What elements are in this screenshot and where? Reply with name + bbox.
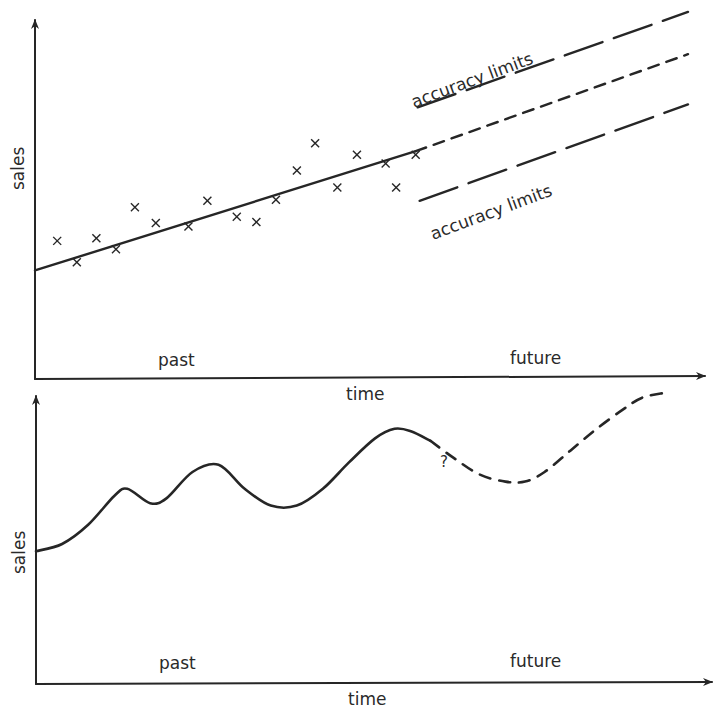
past-label: past	[158, 350, 195, 370]
future-label: future	[510, 348, 561, 368]
data-point-13	[333, 183, 341, 191]
uncertainty-question-mark: ?	[440, 453, 448, 471]
sales-curve-forecast	[430, 393, 665, 483]
data-point-5	[152, 219, 160, 227]
trend-line	[35, 151, 416, 270]
forecast-diagram: sales time past future accuracy limits a…	[0, 0, 718, 715]
lower-limit-label: accuracy limits	[427, 180, 554, 244]
data-point-4	[131, 203, 139, 211]
linear-trend-chart: sales time past future accuracy limits a…	[8, 12, 705, 404]
data-point-0	[53, 237, 61, 245]
future-label: future	[510, 651, 561, 671]
x-axis	[36, 682, 712, 684]
x-axis-label: time	[348, 689, 386, 709]
past-label: past	[159, 653, 196, 673]
data-point-11	[293, 167, 301, 175]
data-point-16	[392, 183, 400, 191]
data-point-14	[353, 151, 361, 159]
cyclical-sales-chart: sales time past future ?	[9, 393, 712, 709]
upper-limit-label: accuracy limits	[408, 48, 535, 112]
x-axis	[35, 376, 705, 379]
sales-curve-past	[36, 428, 430, 551]
x-axis-label: time	[346, 384, 384, 404]
data-point-2	[92, 234, 100, 242]
data-point-8	[233, 213, 241, 221]
y-axis-label: sales	[9, 531, 29, 574]
data-point-12	[311, 139, 319, 147]
data-point-9	[252, 218, 260, 226]
y-axis-label: sales	[8, 147, 28, 190]
forecast-line	[416, 54, 688, 151]
lower-accuracy-limit	[420, 104, 688, 200]
data-point-7	[203, 197, 211, 205]
